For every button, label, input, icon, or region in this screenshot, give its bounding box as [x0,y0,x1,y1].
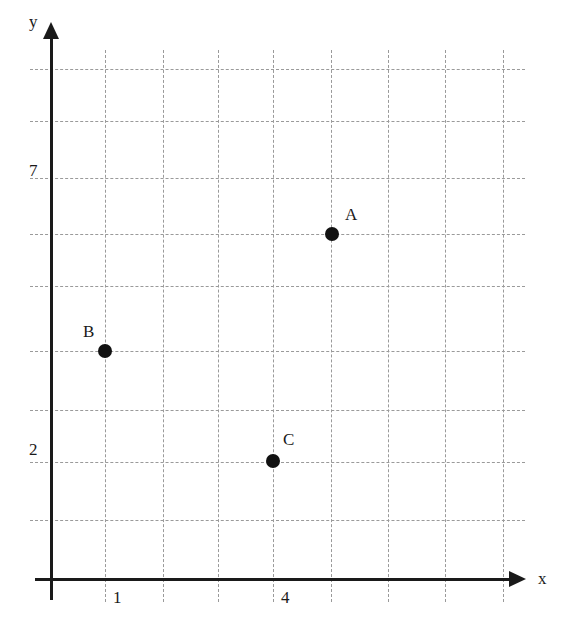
y-axis-arrowhead [43,22,59,39]
y-tick-label-2: 2 [29,440,38,460]
coordinate-plane-chart: y x 1 4 7 2 A B C [0,0,568,620]
gridline-horizontal [30,69,525,70]
data-point-label-B: B [83,322,94,342]
x-axis-arrowhead [509,571,526,587]
y-tick-label-7: 7 [29,161,38,181]
data-point-A[interactable] [325,227,339,241]
x-axis-line [35,578,512,581]
gridline-horizontal [30,121,525,122]
x-tick-label-4: 4 [281,588,290,608]
data-point-label-C: C [283,430,294,450]
data-point-label-A: A [345,205,357,225]
y-axis-label: y [29,12,38,32]
x-tick-label-1: 1 [113,588,122,608]
x-axis-label: x [538,569,547,589]
gridline-horizontal [30,520,525,521]
gridline-horizontal [30,178,525,179]
gridline-horizontal [30,234,525,235]
data-point-B[interactable] [98,344,112,358]
y-axis-line [50,28,53,600]
gridline-horizontal [30,410,525,411]
data-point-C[interactable] [266,454,280,468]
gridline-horizontal [30,286,525,287]
